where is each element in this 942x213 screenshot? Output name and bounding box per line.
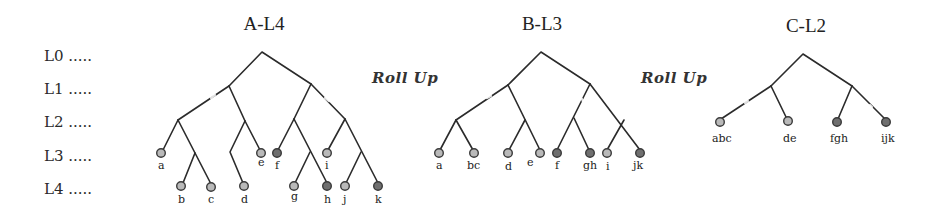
edge bbox=[590, 84, 640, 150]
edge bbox=[230, 121, 245, 183]
tree-c: abc de fgh ijk bbox=[712, 54, 895, 145]
edge bbox=[838, 86, 852, 119]
leaf-node-c: c bbox=[207, 183, 216, 206]
edge bbox=[346, 152, 361, 183]
edge bbox=[278, 119, 294, 150]
svg-text:abc: abc bbox=[712, 132, 732, 145]
svg-text:bc: bc bbox=[467, 159, 480, 172]
leaf-node-i: i bbox=[603, 149, 612, 173]
leaf-node-gh: gh bbox=[583, 149, 597, 172]
svg-text:fgh: fgh bbox=[830, 132, 848, 145]
edge bbox=[178, 86, 229, 120]
edge bbox=[294, 84, 311, 119]
leaf-node-a: a bbox=[435, 149, 444, 172]
leaf-node-g: g bbox=[290, 182, 299, 203]
leaf-node-bc: bc bbox=[467, 149, 480, 172]
leaf-node-ijk: ijk bbox=[881, 118, 895, 145]
svg-text:ijk: ijk bbox=[881, 132, 895, 145]
leaf-node-b: b bbox=[177, 182, 186, 206]
edge bbox=[229, 86, 245, 121]
svg-text:e: e bbox=[258, 156, 265, 169]
edge bbox=[178, 120, 211, 184]
leaf-node-k: k bbox=[374, 182, 383, 206]
svg-text:de: de bbox=[783, 132, 797, 145]
leaf-node-h: h bbox=[323, 182, 332, 206]
edge bbox=[183, 153, 195, 183]
svg-text:h: h bbox=[324, 193, 331, 206]
leaf-node-j: j bbox=[341, 182, 350, 206]
leaf-node-de: de bbox=[783, 117, 797, 145]
edge bbox=[509, 120, 525, 150]
svg-text:i: i bbox=[606, 160, 610, 173]
edge bbox=[771, 54, 852, 86]
edge bbox=[163, 120, 178, 150]
edge-gap bbox=[582, 99, 583, 102]
edge bbox=[508, 85, 540, 150]
svg-text:jk: jk bbox=[631, 159, 643, 172]
svg-text:i: i bbox=[325, 159, 329, 172]
edge bbox=[508, 52, 590, 85]
svg-text:a: a bbox=[158, 159, 165, 172]
edge bbox=[574, 118, 589, 150]
edge-gap bbox=[870, 105, 872, 107]
leaf-node-e: e bbox=[527, 149, 544, 169]
edge bbox=[607, 120, 624, 150]
leaf-node-a: a bbox=[157, 149, 166, 172]
svg-text:k: k bbox=[375, 193, 382, 206]
hierarchy-diagram: .e { stroke: #2b2b2b; stroke-width: 1.6;… bbox=[0, 0, 942, 213]
tree-b: a bc d e f gh i jk bbox=[435, 52, 645, 173]
svg-text:d: d bbox=[241, 193, 248, 206]
edge-gap bbox=[211, 95, 215, 98]
edge bbox=[328, 119, 345, 150]
svg-text:d: d bbox=[505, 160, 512, 173]
leaf-node-i: i bbox=[323, 149, 332, 172]
edge bbox=[852, 86, 885, 119]
edge-gap bbox=[325, 98, 329, 101]
edge bbox=[456, 120, 473, 150]
edge bbox=[229, 52, 311, 86]
edge bbox=[771, 86, 787, 119]
leaf-node-d: d bbox=[240, 182, 249, 206]
svg-text:b: b bbox=[178, 193, 185, 206]
svg-text:g: g bbox=[291, 190, 298, 203]
edge bbox=[456, 85, 508, 120]
edge bbox=[295, 152, 310, 183]
svg-text:a: a bbox=[436, 159, 443, 172]
tree-a: a b c d e f g h i j k bbox=[157, 52, 383, 206]
leaf-node-fgh: fgh bbox=[830, 118, 848, 145]
edge-gap bbox=[745, 101, 748, 103]
edge-gap bbox=[607, 100, 610, 103]
svg-text:f: f bbox=[275, 159, 280, 172]
leaf-node-f: f bbox=[273, 149, 282, 172]
leaf-node-jk: jk bbox=[631, 149, 644, 172]
edge bbox=[440, 120, 456, 150]
leaf-node-abc: abc bbox=[712, 118, 732, 145]
svg-text:e: e bbox=[527, 156, 534, 169]
svg-text:gh: gh bbox=[583, 159, 597, 172]
svg-text:j: j bbox=[341, 193, 346, 206]
leaf-node-f: f bbox=[553, 149, 562, 172]
leaf-node-e: e bbox=[257, 149, 266, 169]
svg-text:c: c bbox=[208, 193, 214, 206]
leaf-node-d: d bbox=[504, 149, 513, 173]
edge bbox=[245, 121, 260, 150]
svg-text:f: f bbox=[555, 159, 560, 172]
